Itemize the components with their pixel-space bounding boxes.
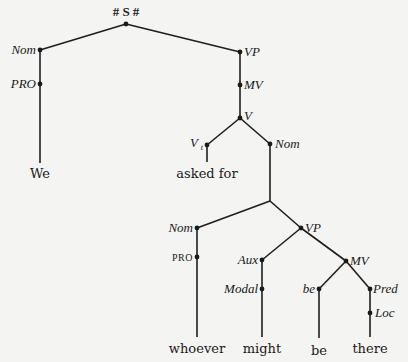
node-dot-mv-lower xyxy=(344,259,349,264)
edge-s-vp xyxy=(126,24,240,52)
tree-node-labels: # S # Nom PRO VP MV V V t Nom Nom PRO VP… xyxy=(10,4,399,320)
label-root-s: # S # xyxy=(113,4,140,19)
label-nom-object: Nom xyxy=(274,136,300,151)
node-dot-mv xyxy=(238,83,243,88)
label-be: be xyxy=(303,281,316,296)
node-dot-nom-object xyxy=(268,142,273,147)
edge-vp-aux xyxy=(262,228,301,260)
label-pro-lower: PRO xyxy=(172,252,193,263)
node-dot-nom xyxy=(38,48,43,53)
edge-junction-nom xyxy=(197,201,270,228)
node-dot-vt xyxy=(205,143,210,148)
node-dot-v xyxy=(238,116,243,121)
edge-v-vt xyxy=(207,118,240,145)
leaf-word-be: be xyxy=(311,343,327,358)
label-vp-lower: VP xyxy=(305,220,321,235)
node-dot-nom-lower xyxy=(195,226,200,231)
node-dot-modal xyxy=(260,287,265,292)
node-dot-aux xyxy=(260,258,265,263)
label-vt-subscript: t xyxy=(201,143,204,152)
leaf-word-whoever: whoever xyxy=(169,341,226,356)
label-v: V xyxy=(244,108,254,123)
tree-leaf-words: We asked for whoever might be there xyxy=(30,166,388,358)
leaf-word-there: there xyxy=(352,341,388,356)
node-dot-s xyxy=(124,22,129,27)
label-modal: Modal xyxy=(223,281,258,296)
node-dot-loc xyxy=(368,311,373,316)
node-dot-vp xyxy=(238,50,243,55)
label-pred: Pred xyxy=(372,281,398,296)
edge-junction-vp xyxy=(270,201,301,228)
label-nom: Nom xyxy=(10,42,36,57)
node-dot-vp-lower xyxy=(299,226,304,231)
node-dot-pred xyxy=(368,287,373,292)
label-pro: PRO xyxy=(10,76,37,91)
label-mv: MV xyxy=(243,77,265,92)
label-loc: Loc xyxy=(374,305,395,320)
node-dot-be xyxy=(317,287,322,292)
node-dot-pro-lower xyxy=(195,255,200,260)
edge-s-nom xyxy=(40,24,126,50)
label-nom-lower: Nom xyxy=(167,220,193,235)
leaf-word-we: We xyxy=(30,166,50,181)
label-vp: VP xyxy=(244,44,260,59)
tree-edges xyxy=(40,24,370,338)
label-vt: V xyxy=(190,135,200,150)
label-mv-lower: MV xyxy=(349,253,371,268)
node-dot-pro xyxy=(38,82,43,87)
edge-mv-be xyxy=(319,261,346,289)
syntax-tree-diagram: # S # Nom PRO VP MV V V t Nom Nom PRO VP… xyxy=(0,0,408,362)
label-aux: Aux xyxy=(237,252,258,267)
leaf-word-asked-for: asked for xyxy=(176,166,238,181)
leaf-word-might: might xyxy=(243,341,282,356)
